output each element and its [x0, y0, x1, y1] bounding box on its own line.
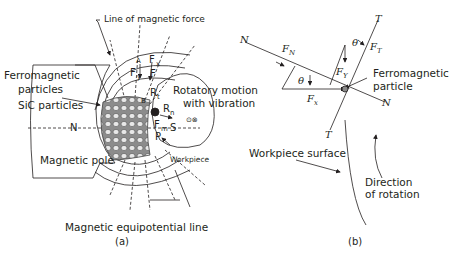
- label-ferromagnetic-particles: Ferromagnetic: [4, 69, 80, 81]
- label-fx-sub: x: [156, 60, 160, 68]
- label-fm-sub: m: [161, 125, 168, 133]
- label-sic-particles: SiC particles: [18, 99, 83, 111]
- label-ferromagnetic-particles-2: particles: [18, 83, 63, 95]
- label-theta-1: θ: [298, 75, 304, 86]
- label-s: S: [170, 122, 176, 133]
- label-rn-sub: n: [170, 109, 174, 117]
- figure-b: [245, 20, 385, 225]
- figure-a: [28, 20, 214, 210]
- label-rt-sub: t: [157, 93, 160, 101]
- caption-a: (a): [115, 236, 129, 247]
- label-fy-sub: y: [137, 73, 141, 81]
- label-workpiece: Workpiece: [170, 155, 210, 164]
- label-t-bottom: T: [325, 129, 333, 140]
- diagram-canvas: Line of magnetic force Ferromagnetic par…: [0, 0, 456, 258]
- label-fy: F: [130, 67, 136, 78]
- label-rt: R: [150, 87, 157, 98]
- field-direction-symbols: ⊙⊗: [186, 116, 198, 124]
- abrasive-brush: [101, 96, 150, 160]
- label-workpiece-surface: Workpiece surface: [249, 147, 346, 159]
- label-rn: R: [163, 103, 170, 114]
- label-f: F: [150, 68, 156, 79]
- workpiece-surface-curve: [345, 120, 366, 225]
- label-of-rotation: of rotation: [365, 188, 420, 200]
- label-ferromagnetic-particle-2: particle: [373, 80, 413, 92]
- marker-b: B: [141, 97, 146, 105]
- label-line-of-magnetic-force: Line of magnetic force: [104, 14, 205, 24]
- label-ft-sub: T: [377, 47, 383, 55]
- label-fm: F: [154, 119, 160, 130]
- label-n-top: N: [239, 34, 250, 45]
- label-fx-b-sub: x: [314, 99, 318, 107]
- label-t-top: T: [375, 13, 383, 24]
- label-ferromagnetic-particle: Ferromagnetic: [373, 67, 449, 79]
- label-with-vibration: with vibration: [183, 97, 255, 109]
- label-n-pole: N: [70, 122, 77, 133]
- caption-b: (b): [348, 236, 362, 247]
- label-n-bottom: N: [381, 97, 392, 108]
- marker-a: A: [136, 57, 141, 65]
- label-fx: F: [149, 54, 155, 65]
- label-theta-2: θ: [352, 37, 358, 48]
- label-direction: Direction: [365, 176, 412, 188]
- label-rotatory-motion: Rotatory motion: [173, 84, 258, 96]
- label-magnetic-equipotential-line: Magnetic equipotential line: [65, 221, 208, 233]
- label-fn-sub: N: [288, 49, 296, 57]
- label-magnetic-pole: Magnetic pole: [40, 154, 114, 166]
- label-fy-b-sub: Y: [343, 72, 349, 80]
